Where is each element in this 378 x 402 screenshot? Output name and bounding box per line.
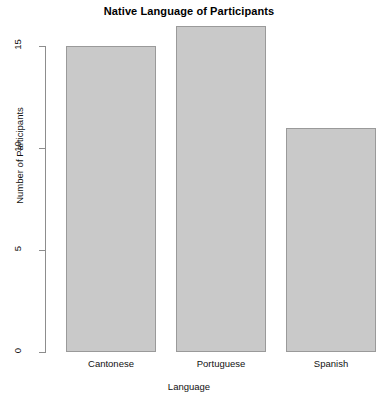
chart-title: Native Language of Participants bbox=[0, 5, 378, 17]
y-axis-title: Number of Participants bbox=[14, 96, 25, 216]
bar bbox=[66, 46, 156, 352]
y-axis-tick-label: 5 bbox=[12, 232, 23, 266]
bar bbox=[176, 26, 266, 352]
x-axis-tick-label: Cantonese bbox=[51, 358, 171, 369]
bars-layer bbox=[46, 40, 378, 352]
y-axis-tick bbox=[39, 250, 45, 251]
x-axis-tick-label: Portuguese bbox=[161, 358, 281, 369]
x-axis-tick-label: Spanish bbox=[271, 358, 378, 369]
x-axis-title: Language bbox=[0, 381, 378, 392]
y-axis-tick bbox=[39, 46, 45, 47]
y-axis-tick-label: 0 bbox=[12, 334, 23, 368]
y-axis-tick bbox=[39, 148, 45, 149]
y-axis-tick-label: 15 bbox=[12, 28, 23, 62]
bar bbox=[286, 128, 376, 352]
plot-area bbox=[46, 40, 378, 352]
bar-chart: Native Language of Participants 051015 N… bbox=[0, 0, 378, 402]
y-axis-tick bbox=[39, 352, 45, 353]
